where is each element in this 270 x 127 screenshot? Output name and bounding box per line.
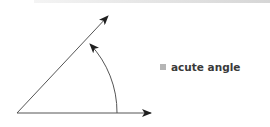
angled-ray	[17, 16, 108, 113]
angle-arc	[90, 44, 117, 113]
legend-swatch	[160, 64, 166, 70]
legend-label: acute angle	[171, 61, 240, 73]
legend: acute angle	[160, 61, 240, 73]
